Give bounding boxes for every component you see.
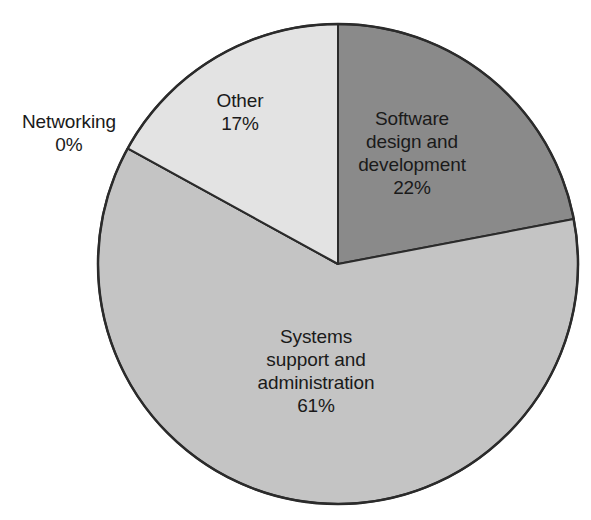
- pie-chart: Networking 0% Other 17% Software design …: [0, 0, 591, 520]
- pie-chart-graphic: [0, 0, 591, 520]
- pie-slices: [98, 24, 578, 504]
